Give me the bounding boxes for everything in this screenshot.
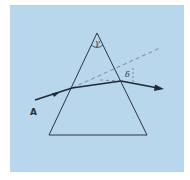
exit-ray-arrowhead (154, 85, 164, 92)
prism-diagram: γ δ A (0, 0, 190, 180)
incident-ray-arrowhead (52, 92, 60, 97)
incident-point-label: A (30, 107, 37, 117)
deviation-angle-label: δ (125, 70, 130, 79)
exit-ray (121, 81, 158, 88)
apex-angle-label: γ (95, 38, 100, 47)
